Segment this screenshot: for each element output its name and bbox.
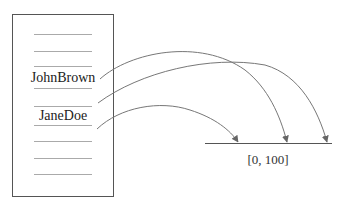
key-label-janedoe: JaneDoe	[39, 108, 87, 123]
range-label: [0, 100]	[247, 152, 288, 167]
arrow-empty-slot	[97, 106, 238, 142]
hash-table-box	[13, 15, 114, 197]
hash-mapping-diagram: JohnBrown JaneDoe [0, 100]	[0, 0, 343, 206]
arrow-janedoe	[98, 62, 327, 142]
slot-lines	[34, 35, 92, 175]
mapping-arrows	[97, 52, 327, 142]
key-label-johnbrown: JohnBrown	[31, 70, 96, 85]
